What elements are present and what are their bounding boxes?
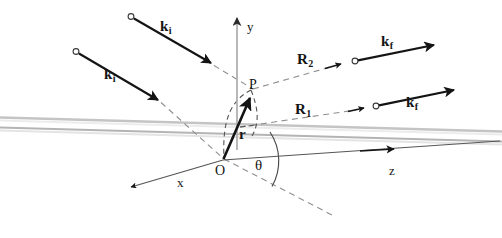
ki-lower-tail-circle: [73, 49, 79, 55]
x-axis-label: x: [177, 176, 184, 189]
R1-label: R1: [295, 101, 311, 119]
r-vector-label-text: r: [239, 126, 246, 142]
y-axis-label: y: [247, 20, 254, 33]
incident-ray-extensions: [161, 66, 253, 160]
ki-upper-tail-circle: [128, 14, 134, 20]
ki-upper-label-sub: i: [168, 25, 171, 36]
dashed-path-arrowheads: [325, 64, 364, 112]
ki-upper-shaft: [134, 19, 211, 64]
kf-lower-tail-circle: [373, 103, 379, 109]
coordinate-axes: [131, 18, 500, 187]
R1-label-sub: 1: [306, 108, 312, 119]
R1-label-text: R: [295, 101, 306, 117]
ki-lower-label: ki: [104, 66, 116, 84]
kf-upper-tail-circle: [352, 58, 358, 64]
R2-label: R2: [297, 51, 313, 69]
R2-label-text: R: [297, 51, 308, 67]
point-p-label: P: [249, 78, 257, 92]
kf-lower-label-sub: f: [414, 101, 418, 112]
r-right-dashed-arc: [251, 90, 257, 136]
z-axis-arrowhead-line: [360, 149, 394, 151]
theta-arc: [270, 132, 279, 187]
R2-label-sub: 2: [308, 58, 314, 69]
kf-upper-label: kf: [381, 33, 393, 51]
R2-dashed-path: [253, 66, 334, 89]
origin-label: O: [215, 164, 225, 178]
theta-label: θ: [255, 158, 262, 173]
film-slab: [0, 118, 502, 145]
ki-lower-shaft: [79, 54, 158, 101]
ki-lower-label-sub: i: [112, 73, 115, 84]
z-axis-label: z: [389, 164, 395, 177]
kf-upper-label-sub: f: [389, 40, 393, 51]
ki-lower-extension: [161, 103, 224, 160]
ki-upper-extension: [214, 66, 253, 90]
ki-upper-label: ki: [160, 18, 172, 36]
scattering-diagram: y z x O P r ki ki kf kf R2 R1 θ: [0, 0, 502, 238]
kf-lower-label: kf: [406, 94, 418, 112]
kf-upper-shaft: [358, 45, 434, 60]
scattered-wavevectors: [352, 45, 454, 109]
diagram-canvas: [0, 0, 502, 238]
r-vector-label: r: [239, 126, 246, 142]
incident-wavevectors: [73, 14, 211, 100]
